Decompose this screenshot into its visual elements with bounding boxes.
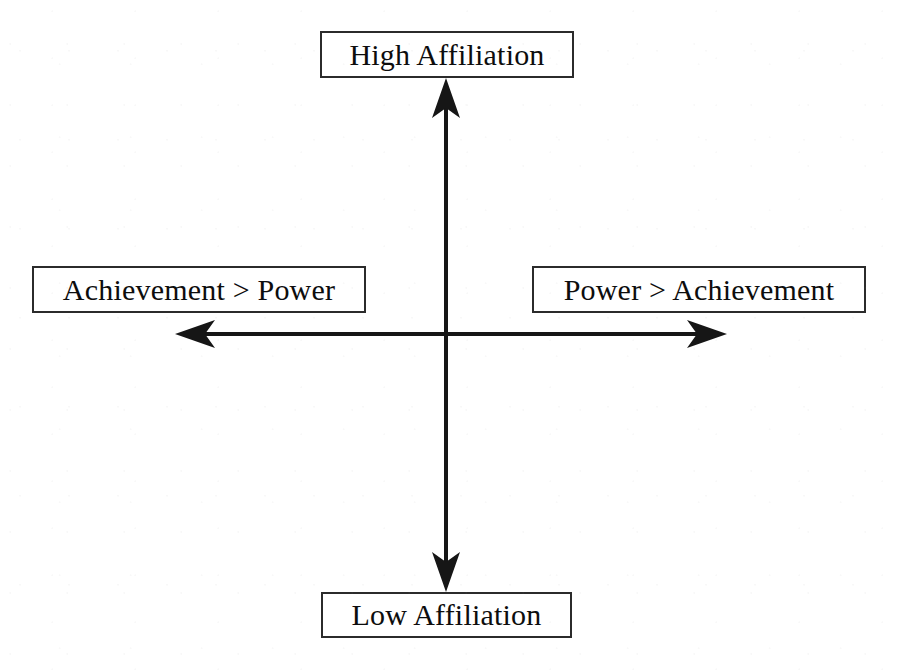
label-box-achievement-over-power: Achievement > Power bbox=[32, 266, 366, 313]
label-box-power-over-achievement: Power > Achievement bbox=[532, 266, 866, 313]
label-low-affiliation: Low Affiliation bbox=[352, 600, 542, 630]
arrowhead-up-icon bbox=[432, 78, 460, 118]
axis-lines-layer bbox=[0, 0, 898, 672]
arrowhead-down-icon bbox=[432, 552, 460, 592]
label-box-low-affiliation: Low Affiliation bbox=[321, 592, 572, 638]
label-box-high-affiliation: High Affiliation bbox=[320, 31, 574, 78]
scan-grain-overlay bbox=[0, 0, 898, 672]
label-high-affiliation: High Affiliation bbox=[349, 40, 544, 70]
arrowhead-left-icon bbox=[175, 320, 215, 348]
diagram-canvas: High Affiliation Achievement > Power Pow… bbox=[0, 0, 898, 672]
arrowhead-right-icon bbox=[687, 320, 727, 348]
label-achievement-over-power: Achievement > Power bbox=[63, 275, 335, 305]
label-power-over-achievement: Power > Achievement bbox=[564, 275, 835, 305]
